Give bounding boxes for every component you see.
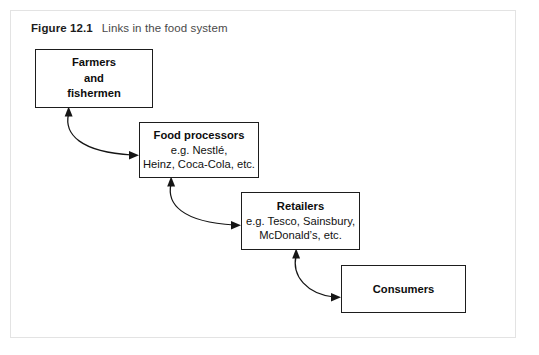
- node-farmers-line3: fishermen: [67, 86, 120, 102]
- node-farmers: Farmers and fishermen: [35, 49, 153, 108]
- node-farmers-line1: Farmers: [72, 55, 116, 71]
- node-consumers: Consumers: [341, 265, 466, 313]
- node-retailers-title: Retailers: [277, 199, 324, 214]
- node-retailers-line3: McDonald’s, etc.: [259, 228, 342, 243]
- figure-container: Figure 12.1Links in the food system Farm…: [0, 0, 539, 355]
- node-processors-line2: e.g. Nestlé,: [171, 143, 228, 158]
- node-farmers-line2: and: [84, 71, 104, 87]
- figure-caption: Figure 12.1Links in the food system: [31, 20, 228, 36]
- node-retailers-line2: e.g. Tesco, Sainsbury,: [246, 214, 355, 229]
- node-processors-line3: Heinz, Coca-Cola, etc.: [143, 157, 255, 172]
- figure-caption-text: Links in the food system: [102, 22, 228, 34]
- node-consumers-title: Consumers: [373, 282, 435, 297]
- figure-label: Figure 12.1: [31, 22, 93, 34]
- node-retailers: Retailers e.g. Tesco, Sainsbury, McDonal…: [241, 192, 360, 250]
- node-food-processors: Food processors e.g. Nestlé, Heinz, Coca…: [139, 122, 259, 178]
- node-processors-title: Food processors: [154, 128, 245, 143]
